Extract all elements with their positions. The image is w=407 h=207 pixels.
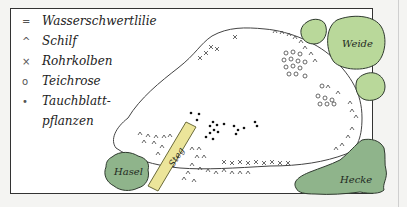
cross-icon: × xyxy=(22,56,36,67)
legend-label: Teichrose xyxy=(42,74,101,88)
hasel-label: Hasel xyxy=(114,166,143,177)
bush-top-left xyxy=(301,19,327,44)
weide-label: Weide xyxy=(342,38,373,49)
legend-label: Schilf xyxy=(42,34,77,48)
double-line-icon: = xyxy=(22,16,36,27)
hecke-label: Hecke xyxy=(340,174,372,185)
bush-right xyxy=(356,73,385,101)
legend-label: Wasserschwertlilie xyxy=(42,14,157,28)
dot-icon: • xyxy=(22,96,36,107)
caret-icon: ^ xyxy=(22,36,36,47)
legend-label: Tauchblatt- xyxy=(42,94,111,108)
legend-label: pflanzen xyxy=(42,114,94,128)
pond-outline xyxy=(113,28,362,169)
legend-label: Rohrkolben xyxy=(42,54,113,68)
circle-icon: o xyxy=(22,76,36,87)
